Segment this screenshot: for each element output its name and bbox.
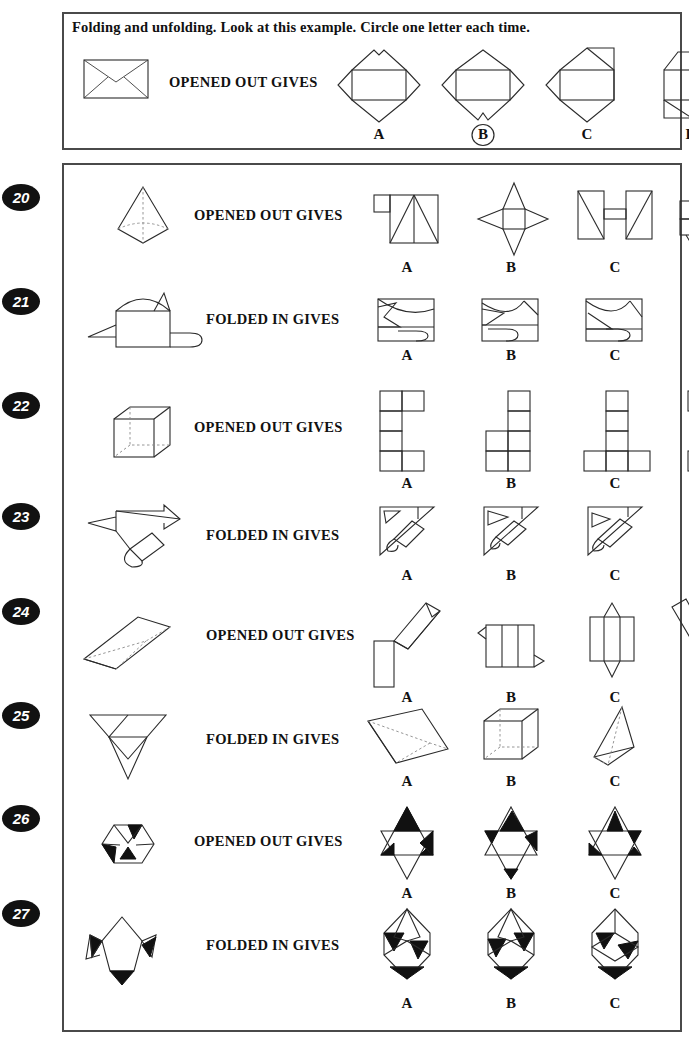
q25-option-letter-b[interactable]: B <box>491 773 531 790</box>
q20-option-shape-c[interactable] <box>576 187 654 247</box>
q20-option-letter-c[interactable]: C <box>595 259 635 276</box>
q21-verb: FOLDED IN GIVES <box>206 311 339 328</box>
q25-option-letter-c[interactable]: C <box>595 773 635 790</box>
q27-prompt-shape <box>80 913 164 989</box>
q26-verb: OPENED OUT GIVES <box>194 833 343 850</box>
question-number-24: 24 <box>2 598 40 625</box>
example-option-shape-d[interactable] <box>648 44 689 126</box>
q27-option-shape-b[interactable] <box>480 907 542 983</box>
question-number-27: 27 <box>2 900 40 927</box>
q27-option-shape-c[interactable] <box>584 907 646 983</box>
q25-prompt-shape <box>86 711 174 783</box>
question-row-20: OPENED OUT GIVES <box>64 179 684 283</box>
q26-option-shape-c[interactable] <box>576 803 654 883</box>
q20-option-shape-d[interactable] <box>678 181 689 257</box>
example-option-letter-d[interactable]: D <box>671 126 689 143</box>
q23-option-shape-b[interactable] <box>480 505 542 561</box>
q26-option-shape-d[interactable] <box>680 803 689 883</box>
q22-verb: OPENED OUT GIVES <box>194 419 343 436</box>
q24-verb: OPENED OUT GIVES <box>206 627 355 644</box>
example-instruction: Folding and unfolding. Look at this exam… <box>72 19 530 36</box>
questions-box: OPENED OUT GIVES <box>62 163 682 1032</box>
q27-verb: FOLDED IN GIVES <box>206 937 339 954</box>
example-option-shape-b[interactable] <box>440 44 526 126</box>
q24-prompt-shape <box>76 611 196 673</box>
q22-option-letter-b[interactable]: B <box>491 475 531 492</box>
q26-prompt-shape <box>98 819 158 869</box>
question-row-26: OPENED OUT GIVES <box>64 801 684 901</box>
q25-verb: FOLDED IN GIVES <box>206 731 339 748</box>
q22-option-shape-a[interactable] <box>376 389 436 473</box>
q23-option-letter-b[interactable]: B <box>491 567 531 584</box>
question-number-22: 22 <box>2 392 40 419</box>
circled-answer-mark <box>463 124 503 148</box>
question-row-23: FOLDED IN GIVES <box>64 497 684 597</box>
q22-prompt-shape <box>110 405 174 463</box>
q20-prompt-shape <box>110 183 176 249</box>
q21-option-letter-a[interactable]: A <box>387 347 427 364</box>
q20-option-shape-b[interactable] <box>476 181 550 257</box>
q25-option-shape-c[interactable] <box>588 705 644 769</box>
q23-option-shape-c[interactable] <box>584 505 646 561</box>
q26-option-shape-b[interactable] <box>472 803 550 883</box>
q25-option-shape-b[interactable] <box>480 707 542 767</box>
q24-option-shape-d[interactable] <box>666 597 689 689</box>
question-number-26: 26 <box>2 805 40 832</box>
question-row-22: OPENED OUT GIVES <box>64 387 684 497</box>
example-verb: OPENED OUT GIVES <box>169 74 318 91</box>
q20-option-shape-a[interactable] <box>372 185 442 255</box>
q24-option-shape-a[interactable] <box>370 599 446 691</box>
q22-option-shape-c[interactable] <box>582 389 654 473</box>
q23-option-shape-a[interactable] <box>376 505 438 561</box>
q21-option-shape-c[interactable] <box>584 297 646 343</box>
q21-option-letter-c[interactable]: C <box>595 347 635 364</box>
q22-option-shape-d[interactable] <box>684 389 689 473</box>
q26-option-letter-b[interactable]: B <box>491 885 531 902</box>
q25-option-letter-a[interactable]: A <box>387 773 427 790</box>
q22-option-shape-b[interactable] <box>482 389 542 473</box>
q20-verb: OPENED OUT GIVES <box>194 207 343 224</box>
q23-option-letter-c[interactable]: C <box>595 567 635 584</box>
example-prompt-shape <box>82 56 152 102</box>
q24-option-shape-c[interactable] <box>580 599 646 685</box>
q27-option-letter-a[interactable]: A <box>387 995 427 1012</box>
q23-verb: FOLDED IN GIVES <box>206 527 339 544</box>
question-row-27: FOLDED IN GIVES <box>64 901 684 1011</box>
q22-option-letter-c[interactable]: C <box>595 475 635 492</box>
question-number-23: 23 <box>2 503 40 530</box>
question-number-25: 25 <box>2 702 40 729</box>
q23-prompt-shape <box>86 505 196 571</box>
question-number-20: 20 <box>2 184 40 211</box>
question-number-21: 21 <box>2 288 40 315</box>
example-option-shape-a[interactable] <box>336 44 422 126</box>
example-option-letter-a[interactable]: A <box>359 126 399 143</box>
example-option-letter-c[interactable]: C <box>567 126 607 143</box>
q23-option-letter-a[interactable]: A <box>387 567 427 584</box>
q27-option-letter-b[interactable]: B <box>491 995 531 1012</box>
question-row-21: FOLDED IN GIVES <box>64 283 684 387</box>
example-box: Folding and unfolding. Look at this exam… <box>62 12 682 150</box>
q27-option-letter-c[interactable]: C <box>595 995 635 1012</box>
q24-option-shape-b[interactable] <box>476 617 546 677</box>
q21-option-letter-b[interactable]: B <box>491 347 531 364</box>
question-row-24: OPENED OUT GIVES <box>64 597 684 701</box>
q21-option-shape-a[interactable] <box>376 297 438 343</box>
example-option-shape-c[interactable] <box>544 44 630 126</box>
q25-option-shape-a[interactable] <box>364 705 454 771</box>
q21-prompt-shape <box>86 289 206 355</box>
q26-option-letter-c[interactable]: C <box>595 885 635 902</box>
q20-option-letter-b[interactable]: B <box>491 259 531 276</box>
q27-option-shape-a[interactable] <box>376 907 438 983</box>
question-row-25: FOLDED IN GIVES <box>64 701 684 801</box>
q26-option-letter-a[interactable]: A <box>387 885 427 902</box>
q21-option-shape-b[interactable] <box>480 297 542 343</box>
q26-option-shape-a[interactable] <box>368 803 446 883</box>
q20-option-letter-a[interactable]: A <box>387 259 427 276</box>
q22-option-letter-a[interactable]: A <box>387 475 427 492</box>
example-body: OPENED OUT GIVES <box>64 42 680 148</box>
